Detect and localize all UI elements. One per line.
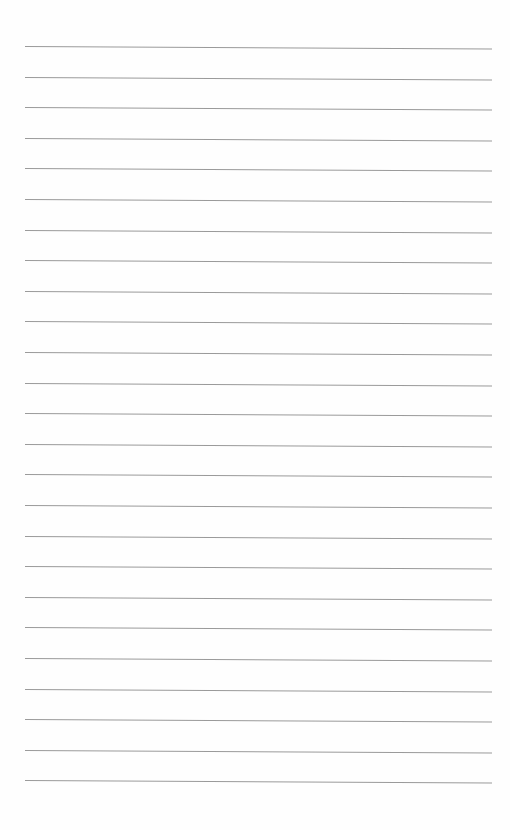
ruled-line — [25, 444, 492, 447]
ruled-line — [25, 199, 492, 202]
ruled-line — [25, 321, 492, 324]
ruled-line — [25, 689, 492, 692]
ruled-line — [25, 168, 492, 171]
ruled-line — [25, 719, 492, 722]
ruled-line — [25, 291, 492, 294]
ruled-line — [25, 230, 492, 233]
ruled-line — [25, 627, 492, 630]
ruled-line — [25, 597, 492, 600]
lined-paper-page — [0, 0, 510, 830]
ruled-line — [25, 260, 492, 263]
ruled-line — [25, 138, 492, 141]
ruled-line — [25, 566, 492, 569]
ruled-line — [25, 413, 492, 416]
ruled-line — [25, 536, 492, 539]
ruled-line — [25, 352, 492, 355]
ruled-line — [25, 474, 492, 477]
ruled-line — [25, 750, 492, 753]
ruled-line — [25, 383, 492, 386]
ruled-line — [25, 505, 492, 508]
ruled-line — [25, 77, 492, 80]
ruled-line — [25, 658, 492, 661]
ruled-line — [25, 107, 492, 110]
ruled-line — [25, 46, 492, 49]
ruled-line — [25, 780, 492, 783]
